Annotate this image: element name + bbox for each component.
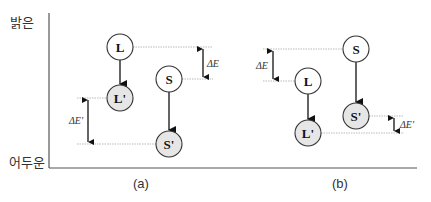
node-S-prime: S' xyxy=(156,131,182,157)
svg-text:L': L' xyxy=(114,91,126,106)
delta-e-label: ΔE xyxy=(206,58,219,69)
node-S: S xyxy=(156,66,182,92)
node-L: L xyxy=(295,68,321,94)
node-S-prime: S' xyxy=(343,103,369,129)
energy-diagram: ΔE ΔE' L L' S S' ΔE xyxy=(0,0,431,202)
node-L-prime: L' xyxy=(295,120,321,146)
svg-text:L: L xyxy=(116,40,125,55)
delta-e-label: ΔE xyxy=(255,60,268,71)
node-S: S xyxy=(343,36,369,62)
delta-e-prime-label: ΔE' xyxy=(399,119,415,130)
node-L-prime: L' xyxy=(107,85,133,111)
svg-text:S: S xyxy=(352,42,359,57)
delta-e-prime-label: ΔE' xyxy=(68,115,84,126)
svg-text:S: S xyxy=(165,72,172,87)
axes xyxy=(49,13,417,168)
svg-text:L: L xyxy=(304,74,313,89)
svg-text:S': S' xyxy=(164,137,175,152)
node-L: L xyxy=(107,34,133,60)
svg-text:L': L' xyxy=(302,126,314,141)
panel-a: ΔE ΔE' L L' S S' xyxy=(68,34,219,157)
panel-b: ΔE ΔE' S L S' L' xyxy=(255,36,415,146)
svg-text:S': S' xyxy=(351,109,362,124)
